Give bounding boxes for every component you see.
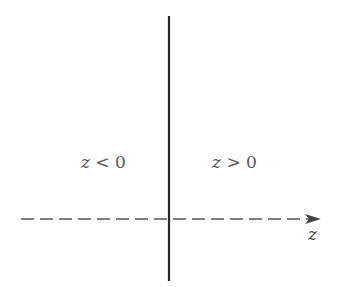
region-label-negative: z < 0 xyxy=(81,152,126,172)
region-negative-variable: z xyxy=(81,152,90,172)
z-axis-label: z xyxy=(308,224,317,244)
region-negative-value: 0 xyxy=(115,152,126,172)
diagram-canvas: z < 0 z > 0 z xyxy=(0,0,341,287)
diagram-svg xyxy=(0,0,341,287)
region-positive-value: 0 xyxy=(246,152,257,172)
region-label-positive: z > 0 xyxy=(212,152,257,172)
region-positive-variable: z xyxy=(212,152,221,172)
region-negative-relation: < xyxy=(95,152,109,172)
region-positive-relation: > xyxy=(226,152,240,172)
